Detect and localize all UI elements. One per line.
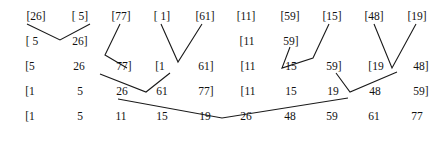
array-cell: [11 (232, 83, 264, 99)
array-cell: 77 (401, 108, 433, 124)
merge-sort-diagram: [26][ 5][77][ 1][61][11][59][15][48][19]… (0, 0, 445, 141)
array-cell: [61] (189, 8, 221, 24)
merge-level-row: [15266177][1115194859] (0, 83, 445, 99)
array-cell: [5 (14, 58, 46, 74)
array-cell: [1 (144, 58, 176, 74)
array-cell: 15 (275, 83, 307, 99)
merge-level-row: [ 526][1159] (0, 33, 445, 49)
array-cell: 61] (190, 58, 222, 74)
array-cell: [ 1] (146, 8, 178, 24)
array-cell: 59] (318, 58, 350, 74)
merge-level-row: [52677][161][111559][1948] (0, 58, 445, 74)
array-cell: [11] (230, 8, 262, 24)
array-cell: [1 (14, 83, 46, 99)
array-cell: [59] (274, 8, 306, 24)
array-cell: [19] (401, 8, 433, 24)
array-cell: 26 (106, 83, 138, 99)
array-cell: 59] (275, 33, 307, 49)
array-cell: 48] (405, 58, 437, 74)
array-cell: 26 (230, 108, 262, 124)
array-cell: 19 (189, 108, 221, 124)
array-cell: 19 (317, 83, 349, 99)
array-cell: [15] (316, 8, 348, 24)
array-cell: 26] (64, 33, 96, 49)
array-cell: 15 (275, 58, 307, 74)
array-cell: [11 (231, 33, 263, 49)
array-cell: 5 (64, 83, 96, 99)
array-cell: [11 (232, 58, 264, 74)
array-cell: [1 (14, 108, 46, 124)
array-cell: 59 (316, 108, 348, 124)
array-cell: [48] (358, 8, 390, 24)
array-cell: [ 5] (64, 8, 96, 24)
array-cell: 48 (274, 108, 306, 124)
merge-level-row: [26][ 5][77][ 1][61][11][59][15][48][19] (0, 8, 445, 24)
array-cell: 15 (146, 108, 178, 124)
array-cell: 48 (359, 83, 391, 99)
array-cell: [77] (105, 8, 137, 24)
array-cell: 77] (108, 58, 140, 74)
array-cell: 26 (63, 58, 95, 74)
array-cell: [19 (360, 58, 392, 74)
merge-level-row: [151115192648596177 (0, 108, 445, 124)
array-cell: 59] (405, 83, 437, 99)
array-cell: 11 (105, 108, 137, 124)
array-cell: 77] (190, 83, 222, 99)
array-cell: 5 (64, 108, 96, 124)
array-cell: 61 (146, 83, 178, 99)
array-cell: 61 (358, 108, 390, 124)
array-cell: [ 5 (16, 33, 48, 49)
array-cell: [26] (20, 8, 52, 24)
